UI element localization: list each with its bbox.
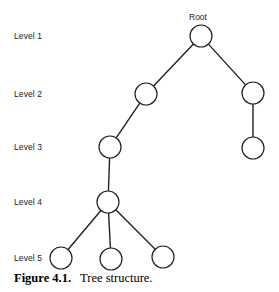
tree-node-n3b	[242, 137, 264, 159]
tree-node-n5c	[152, 246, 174, 268]
tree-edge-n4a-n5b	[109, 213, 111, 248]
tree-edge-root-n2a	[154, 44, 194, 86]
tree-node-n5b	[100, 248, 122, 270]
tree-node-root	[190, 25, 212, 47]
level-label-2: Level 2	[14, 90, 42, 99]
figure-caption: Figure 4.1.Tree structure.	[14, 272, 269, 286]
tree-edge-n4a-n5a	[68, 210, 101, 249]
tree-node-n5a	[50, 247, 72, 269]
figure-container: Level 1Level 2Level 3Level 4Level 5 Root…	[0, 0, 279, 292]
level-label-3: Level 3	[14, 143, 42, 152]
tree-edge-n2a-n3a	[116, 103, 140, 138]
tree-edge-n4a-n5c	[116, 210, 155, 249]
figure-number: Figure 4.1.	[14, 271, 71, 285]
tree-node-n4a	[97, 191, 119, 213]
edge-group	[68, 44, 253, 250]
root-node-label: Root	[189, 13, 207, 22]
level-label-5: Level 5	[14, 254, 42, 263]
tree-node-n3a	[99, 136, 121, 158]
level-label-1: Level 1	[14, 32, 42, 41]
tree-node-n2b	[242, 82, 264, 104]
tree-edge-root-n2b	[208, 44, 245, 85]
tree-node-n2a	[135, 83, 157, 105]
tree-edge-n3a-n4a	[108, 158, 109, 191]
figure-caption-text: Tree structure.	[80, 271, 152, 285]
level-label-4: Level 4	[14, 198, 42, 207]
